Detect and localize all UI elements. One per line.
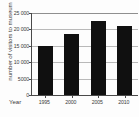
bar-chart: number of visitors to museum 0500010 000…	[0, 0, 139, 117]
y-axis-tick-mark	[29, 95, 32, 96]
y-axis-tick-mark	[29, 29, 32, 30]
x-axis-tick-label: 2010	[118, 99, 129, 105]
bar	[117, 26, 132, 95]
x-axis-tick-label: 2005	[92, 99, 103, 105]
y-axis-tick-mark	[29, 62, 32, 63]
y-axis-tick-mark	[29, 79, 32, 80]
y-axis-tick-mark	[29, 46, 32, 47]
x-axis-title: Year	[9, 99, 21, 105]
x-axis-tick-labels: 1995200020052010	[31, 99, 137, 109]
y-axis-tick-label: 25 000	[14, 10, 29, 16]
y-axis-tick-mark	[29, 13, 32, 14]
x-axis-tick-mark	[98, 95, 99, 98]
bar-series	[32, 13, 138, 95]
bar	[38, 46, 53, 95]
y-axis-tick-label: 20 000	[14, 26, 29, 32]
x-axis-tick-label: 2000	[65, 99, 76, 105]
x-axis-tick-mark	[45, 95, 46, 98]
x-axis-tick-mark	[72, 95, 73, 98]
x-axis-tick-label: 1995	[39, 99, 50, 105]
y-axis-tick-label: 10 000	[14, 59, 29, 65]
bar	[91, 21, 106, 95]
y-axis-tick-label: 15 000	[14, 43, 29, 49]
plot-area	[31, 13, 138, 96]
x-axis-tick-mark	[125, 95, 126, 98]
y-axis-tick-labels: 0500010 00015 00020 00025 000	[8, 8, 30, 100]
bar	[64, 34, 79, 95]
y-axis-tick-label: 5000	[18, 76, 29, 82]
